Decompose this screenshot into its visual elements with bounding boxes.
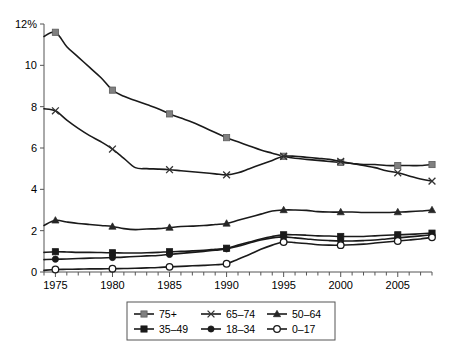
- axes: [40, 24, 432, 277]
- x-tick-label: 1980: [100, 279, 124, 291]
- data-point-marker: [223, 260, 230, 267]
- x-tick-label: 1995: [271, 279, 295, 291]
- line-chart: 024681012% 1975198019851990199520002005 …: [0, 0, 452, 360]
- data-point-marker: [223, 135, 229, 141]
- legend-item-label: 0–17: [292, 323, 316, 335]
- data-point-marker: [166, 251, 172, 257]
- data-point-marker: [52, 266, 59, 273]
- series-75plus: [44, 29, 435, 168]
- data-point-marker: [394, 238, 401, 245]
- series-line: [44, 235, 432, 260]
- plot-area: 024681012% 1975198019851990199520002005: [15, 18, 436, 291]
- x-tick-label: 2005: [386, 279, 410, 291]
- legend-marker-icon: [141, 311, 147, 317]
- data-point-marker: [52, 256, 58, 262]
- x-axis-tick-labels: 1975198019851990199520002005: [43, 279, 410, 291]
- series-line: [44, 32, 432, 166]
- series-line: [44, 109, 432, 181]
- y-tick-label: 12%: [15, 18, 37, 30]
- data-point-marker: [166, 264, 173, 271]
- legend-marker-icon: [141, 326, 147, 332]
- x-tick-label: 1985: [157, 279, 181, 291]
- data-point-marker: [395, 162, 401, 168]
- legend-item-label: 50–64: [292, 308, 321, 320]
- legend-item-label: 65–74: [226, 308, 255, 320]
- series-line: [44, 237, 432, 270]
- legend-item-label: 75+: [159, 308, 177, 320]
- y-tick-label: 10: [25, 59, 37, 71]
- data-point-marker: [429, 161, 435, 167]
- data-point-marker: [109, 146, 116, 153]
- chart-svg: 024681012% 1975198019851990199520002005 …: [0, 0, 452, 360]
- data-point-marker: [223, 246, 229, 252]
- y-tick-label: 6: [31, 142, 37, 154]
- x-tick-label: 2000: [328, 279, 352, 291]
- data-point-marker: [166, 111, 172, 117]
- legend-marker-icon: [208, 326, 214, 332]
- data-point-marker: [109, 87, 115, 93]
- y-tick-label: 8: [31, 101, 37, 113]
- data-series: [44, 29, 436, 273]
- data-point-marker: [52, 107, 59, 114]
- data-point-marker: [109, 265, 116, 272]
- data-point-marker: [280, 239, 287, 246]
- y-tick-label: 2: [31, 225, 37, 237]
- series-65-74: [44, 107, 435, 184]
- series-line: [44, 210, 432, 230]
- data-point-marker: [109, 254, 115, 260]
- data-point-marker: [429, 234, 436, 241]
- data-point-marker: [52, 249, 58, 255]
- legend-item-label: 35–49: [159, 323, 188, 335]
- x-tick-label: 1990: [214, 279, 238, 291]
- chart-legend: 75+65–7450–6435–4918–340–17: [127, 302, 335, 340]
- legend-marker-icon: [274, 326, 281, 333]
- y-tick-label: 0: [31, 266, 37, 278]
- y-tick-label: 4: [31, 183, 37, 195]
- series-50-64: [44, 206, 436, 230]
- data-point-marker: [337, 242, 344, 249]
- data-point-marker: [52, 29, 58, 35]
- legend-item-label: 18–34: [226, 323, 255, 335]
- x-tick-label: 1975: [43, 279, 67, 291]
- y-axis-tick-labels: 024681012%: [15, 18, 37, 278]
